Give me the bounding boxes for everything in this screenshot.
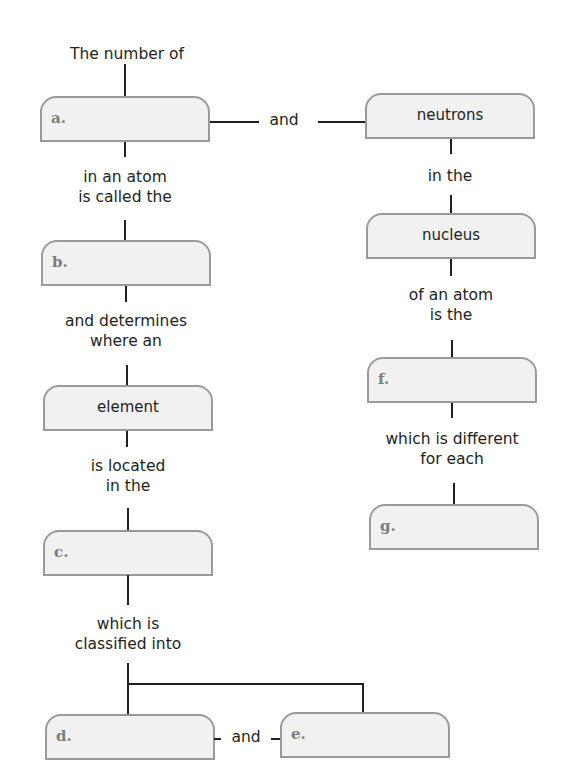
concept-box-nucleus: nucleus: [366, 213, 536, 259]
link-text-in-the: in the: [365, 166, 535, 186]
blank-label-a: a.: [51, 109, 66, 127]
blank-box-d[interactable]: d.: [45, 714, 215, 760]
connector-line: [125, 286, 127, 302]
connector-line: [453, 483, 455, 504]
link-text-and-determines: and determines where an: [40, 311, 212, 351]
link-text-of-an-atom: of an atom is the: [366, 285, 536, 325]
connector-line: [126, 365, 128, 385]
connector-line: [127, 683, 364, 685]
intro-text: The number of: [50, 44, 204, 64]
connector-line: [271, 738, 280, 740]
connector-line: [450, 139, 452, 154]
link-text-which-is-different: which is different for each: [367, 429, 537, 469]
term-nucleus: nucleus: [368, 226, 534, 244]
blank-label-g: g.: [380, 517, 396, 535]
blank-box-e[interactable]: e.: [280, 712, 450, 758]
connector-line: [124, 220, 126, 240]
connector-line: [450, 259, 452, 276]
blank-label-d: d.: [56, 727, 72, 745]
blank-label-b: b.: [52, 253, 68, 271]
term-element: element: [45, 398, 211, 416]
blank-label-f: f.: [378, 370, 389, 388]
connector-line: [124, 64, 126, 96]
connector-line: [210, 121, 259, 123]
connector-line: [126, 431, 128, 447]
connector-line: [450, 195, 452, 213]
link-text-classified-into: which is classified into: [43, 614, 213, 654]
connector-line: [127, 663, 129, 714]
connector-line: [451, 340, 453, 357]
blank-box-g[interactable]: g.: [369, 504, 539, 550]
blank-label-c: c.: [54, 543, 68, 561]
connector-line: [214, 738, 221, 740]
connector-line: [318, 121, 365, 123]
connector-line: [362, 683, 364, 712]
concept-box-neutrons: neutrons: [365, 93, 535, 139]
connector-line: [127, 575, 129, 605]
connector-line: [127, 508, 129, 530]
concept-box-element: element: [43, 385, 213, 431]
blank-box-b[interactable]: b.: [41, 240, 211, 286]
blank-box-f[interactable]: f.: [367, 357, 537, 403]
connector-line: [451, 403, 453, 418]
blank-box-c[interactable]: c.: [43, 530, 213, 576]
blank-box-a[interactable]: a.: [40, 96, 210, 142]
blank-label-e: e.: [291, 725, 306, 743]
link-text-and: and: [262, 110, 306, 130]
link-text-in-an-atom: in an atom is called the: [40, 167, 210, 207]
link-text-is-located: is located in the: [43, 456, 213, 496]
term-neutrons: neutrons: [367, 106, 533, 124]
connector-line: [124, 142, 126, 157]
link-text-and-de: and: [222, 727, 270, 747]
